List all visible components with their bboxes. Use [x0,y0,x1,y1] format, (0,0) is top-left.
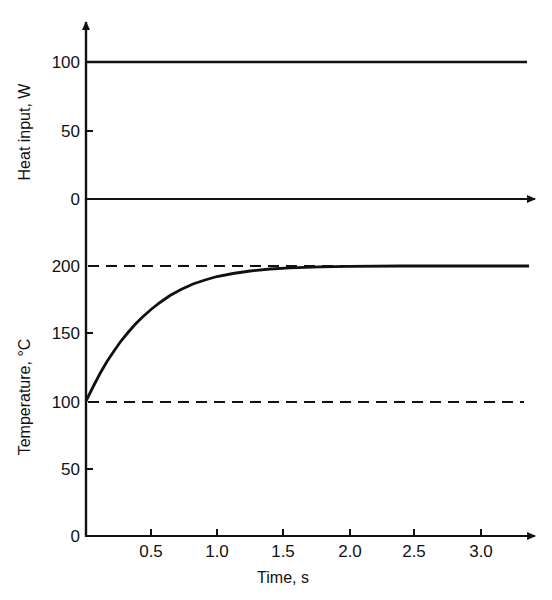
chart-canvas: 100 50 0 Heat input, W 200 150 100 50 0 … [0,0,552,600]
tick-label-2.0: 2.0 [338,542,362,561]
heat-input-y-title: Heat input, W [16,83,33,181]
tick-label-0.5: 0.5 [139,542,163,561]
tick-label-3.0: 3.0 [469,542,493,561]
heat-input-panel: 100 50 0 Heat input, W [16,22,535,209]
temperature-panel: 200 150 100 50 0 0.5 1.0 1.5 2.0 2.5 3.0… [16,199,535,586]
temperature-curve [86,266,529,401]
tick-label-50: 50 [61,460,80,479]
tick-label-50: 50 [61,122,80,141]
tick-label-2.5: 2.5 [402,542,426,561]
tick-label-100: 100 [52,393,80,412]
time-x-title: Time, s [257,569,309,586]
tick-label-100: 100 [52,53,80,72]
tick-label-1.5: 1.5 [271,542,295,561]
temperature-y-title: Temperature, °C [16,339,33,456]
tick-label-1.0: 1.0 [205,542,229,561]
tick-label-150: 150 [52,324,80,343]
tick-label-0: 0 [71,190,80,209]
tick-label-200: 200 [52,257,80,276]
tick-label-0: 0 [71,527,80,546]
